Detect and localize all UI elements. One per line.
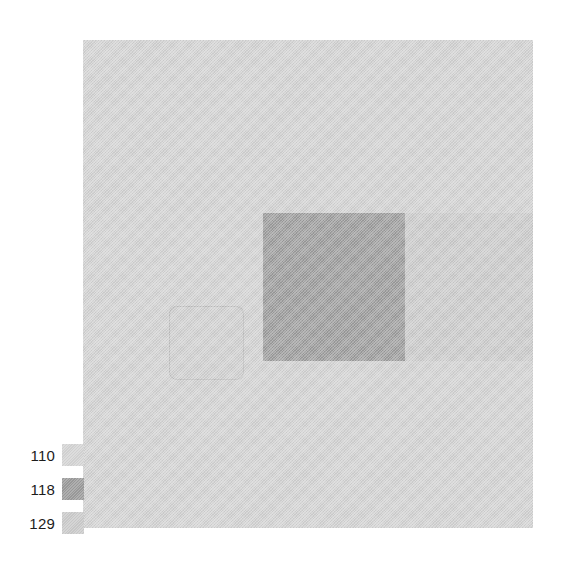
image-panel — [83, 40, 533, 528]
legend-color-swatch — [62, 512, 84, 534]
legend-item-label: 118 — [30, 481, 55, 498]
legend-color-swatch — [62, 444, 84, 466]
legend-item[interactable]: 118 — [12, 474, 84, 504]
legend-color-swatch — [62, 478, 84, 500]
region-core-square — [263, 213, 405, 361]
legend-item[interactable]: 129 — [12, 508, 84, 538]
legend-item-label: 110 — [30, 447, 55, 464]
region-faint-outline — [169, 306, 244, 380]
legend: 110 118 129 — [12, 440, 84, 542]
legend-item-label: 129 — [29, 515, 55, 532]
region-halo-band — [405, 213, 533, 361]
legend-item[interactable]: 110 — [12, 440, 84, 470]
